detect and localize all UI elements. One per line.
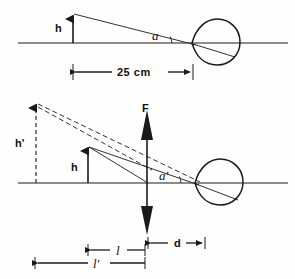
lens-arrow-down bbox=[141, 183, 153, 235]
dimension-d: d bbox=[148, 237, 205, 249]
lens-arrow-up bbox=[141, 110, 153, 183]
dimension-l-label: l bbox=[116, 243, 120, 258]
upper-distance-label: 25 cm bbox=[117, 66, 151, 78]
dimension-l-prime-label: l' bbox=[93, 256, 100, 271]
lower-angle-arc bbox=[179, 176, 181, 183]
virtual-ray-upper bbox=[38, 104, 200, 182]
lower-angle-label: a' bbox=[159, 168, 169, 183]
diagram-canvas: h a 25 cm h' h bbox=[0, 0, 295, 279]
virtual-ray-lower bbox=[38, 107, 152, 170]
upper-object-height-label: h bbox=[55, 22, 62, 34]
upper-distance-dimension: 25 cm bbox=[73, 64, 193, 80]
lens-label: F bbox=[142, 102, 149, 114]
upper-angle-arc bbox=[170, 37, 172, 43]
upper-chief-ray bbox=[74, 14, 196, 45]
dimension-d-label: d bbox=[174, 237, 181, 249]
upper-angle-label: a bbox=[152, 28, 159, 43]
upper-retinal-ray bbox=[193, 44, 235, 57]
upper-eye-icon bbox=[192, 19, 240, 65]
lower-eye-icon bbox=[195, 159, 243, 205]
lower-diagram: h' h F a' bbox=[15, 102, 288, 271]
lower-object-height-label: h bbox=[71, 161, 78, 173]
dimension-l-prime: l' bbox=[35, 256, 145, 271]
lower-image-height-label: h' bbox=[15, 137, 25, 149]
upper-diagram: h a 25 cm bbox=[18, 14, 288, 80]
optics-figure: h a 25 cm h' h bbox=[0, 0, 295, 279]
